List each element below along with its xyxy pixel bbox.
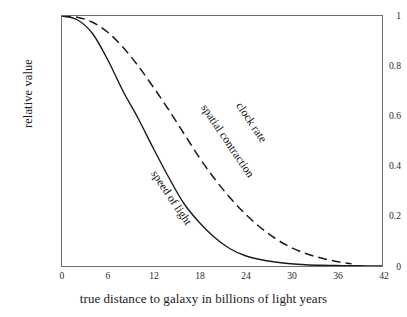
x-tick-label-12: 12 — [134, 271, 174, 281]
chart-figure: relative value 1 0.8 0.6 0.4 0.2 0 0 6 1… — [0, 0, 407, 317]
curve-spatial-contraction-clock-rate — [62, 16, 352, 264]
x-tick-label-0: 0 — [42, 271, 82, 281]
x-tick-label-24: 24 — [226, 271, 266, 281]
x-axis-label: true distance to galaxy in billions of l… — [0, 291, 407, 307]
x-tick-label-18: 18 — [180, 271, 220, 281]
y-axis-label: relative value — [21, 14, 36, 174]
x-tick-label-36: 36 — [318, 271, 358, 281]
x-tick-label-30: 30 — [272, 271, 312, 281]
plot-area: speed of light spatial contraction clock… — [61, 15, 383, 267]
x-tick-label-6: 6 — [88, 271, 128, 281]
x-tick-label-42: 42 — [364, 271, 404, 281]
